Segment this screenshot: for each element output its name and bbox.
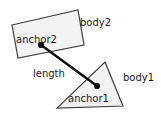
length-connector-line	[41, 45, 97, 86]
length-label: length	[33, 68, 65, 79]
diagram-canvas: anchor2 body2 length anchor1 body1	[0, 0, 161, 115]
joint-diagram: anchor2 body2 length anchor1 body1	[0, 0, 161, 115]
anchor1-label: anchor1	[68, 93, 109, 104]
anchor2-label: anchor2	[16, 34, 57, 45]
body2-label: body2	[80, 17, 111, 28]
anchor1-dot	[94, 83, 100, 89]
body1-label: body1	[123, 72, 154, 83]
